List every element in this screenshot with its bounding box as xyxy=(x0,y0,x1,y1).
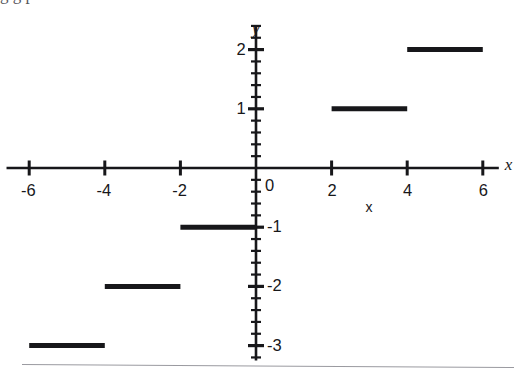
x-tick-label--4: -4 xyxy=(97,182,112,199)
y-tick-label-1: 1 xyxy=(236,100,245,117)
y-tick-label--1: -1 xyxy=(267,218,282,235)
x-tick-label--6: -6 xyxy=(21,182,36,199)
y-tick-label--3: -3 xyxy=(267,337,282,354)
y-tick-label--2: -2 xyxy=(267,277,282,294)
x-tick-label--2: -2 xyxy=(172,182,187,199)
step-function-figure: g g p -6-4-2024621-1-2-3yxx xyxy=(0,0,526,376)
x-tick-label-4: 4 xyxy=(403,182,412,199)
x-tick-label-2: 2 xyxy=(328,182,337,199)
x-axis-name: x xyxy=(505,156,513,173)
y-tick-label-2: 2 xyxy=(236,41,245,58)
x-tick-label-6: 6 xyxy=(479,182,488,199)
y-axis-name: y xyxy=(252,20,260,37)
x-tick-label-0: 0 xyxy=(265,177,274,194)
x-axis-name-secondary: x xyxy=(365,200,372,214)
plot-canvas xyxy=(0,0,526,376)
